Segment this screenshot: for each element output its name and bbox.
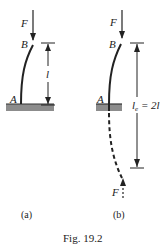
force-label-b: F — [109, 16, 117, 28]
reflected-force-label-b: F — [111, 186, 119, 198]
figure-caption: Fig. 19.2 — [63, 232, 102, 244]
point-label-a-a: A — [9, 93, 17, 105]
force-arrowhead-b — [119, 31, 125, 39]
panel-a: F B A l (a) — [6, 10, 55, 221]
figure-canvas: F B A l (a) F B A F — [0, 0, 165, 249]
dimension-label-a: l — [46, 68, 49, 80]
point-label-b-b: B — [109, 38, 116, 50]
panel-label-b: (b) — [113, 209, 125, 221]
panel-label-a: (a) — [21, 209, 32, 221]
column-a — [21, 45, 33, 104]
dimension-label-b: le = 2l — [132, 99, 160, 113]
point-label-b-a: B — [21, 38, 28, 50]
reflected-force-arrowhead-b — [120, 178, 126, 186]
force-arrowhead-a — [30, 33, 36, 41]
column-b — [109, 44, 121, 111]
force-label-a: F — [20, 17, 28, 29]
column-b-extension — [109, 113, 122, 178]
point-label-a-b: A — [96, 93, 104, 105]
panel-b: F B A F le = 2l (b) — [96, 10, 160, 221]
